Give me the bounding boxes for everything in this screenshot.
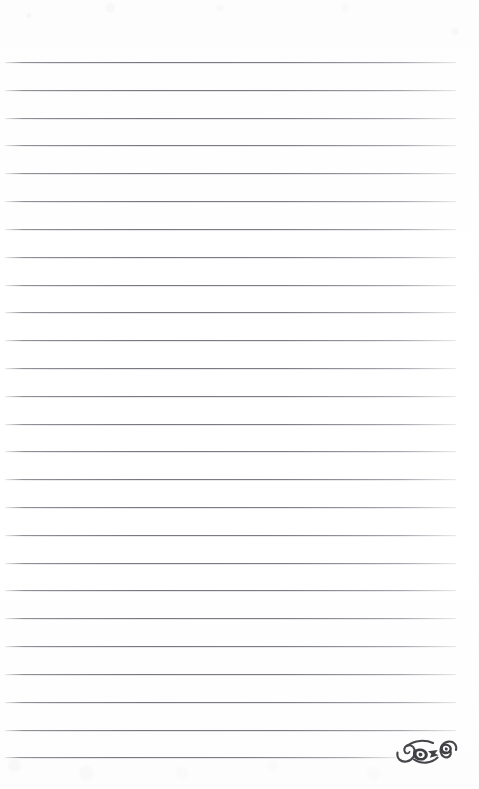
- ruled-lines-group: [0, 0, 479, 789]
- ruled-line: [5, 646, 456, 647]
- ruled-line: [5, 702, 456, 703]
- ruled-line: [5, 173, 456, 174]
- ruled-line: [5, 340, 456, 341]
- ruled-line: [5, 312, 456, 313]
- ruled-line: [5, 90, 456, 91]
- ruled-line: [5, 62, 456, 63]
- ruled-line: [5, 424, 456, 425]
- ruled-line: [5, 563, 456, 564]
- ruled-line: [5, 285, 456, 286]
- ruled-line: [5, 396, 456, 397]
- ruled-line: [5, 257, 456, 258]
- ruled-line: [5, 229, 456, 230]
- ruled-line: [5, 368, 456, 369]
- ruled-line: [5, 730, 456, 731]
- notebook-page: [0, 0, 479, 789]
- ruled-line: [5, 507, 456, 508]
- ruled-line: [5, 451, 456, 452]
- ruled-line: [5, 201, 456, 202]
- ruled-line: [5, 145, 456, 146]
- ruled-line: [5, 618, 456, 619]
- ruled-line: [5, 590, 456, 591]
- ruled-line: [5, 535, 456, 536]
- ruled-line: [5, 674, 456, 675]
- ruled-line: [5, 757, 396, 758]
- ruled-line: [5, 118, 456, 119]
- ruled-line: [5, 479, 456, 480]
